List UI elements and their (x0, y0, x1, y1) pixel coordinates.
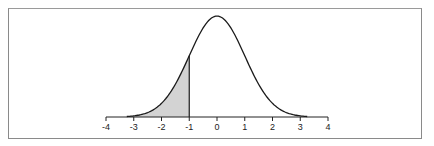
shaded-left-tail (127, 56, 189, 117)
x-axis-ticks: -4-3-2-101234 (102, 117, 331, 132)
normal-distribution-chart: -4-3-2-101234 (0, 0, 434, 146)
x-tick-label: -4 (102, 122, 110, 132)
x-tick-label: -2 (157, 122, 165, 132)
normal-curve (127, 16, 307, 116)
x-tick-label: 1 (242, 122, 247, 132)
x-tick-label: 4 (325, 122, 330, 132)
x-tick-label: 0 (214, 122, 219, 132)
x-tick-label: -3 (130, 122, 138, 132)
x-tick-label: 3 (298, 122, 303, 132)
x-tick-label: -1 (185, 122, 193, 132)
x-tick-label: 2 (270, 122, 275, 132)
